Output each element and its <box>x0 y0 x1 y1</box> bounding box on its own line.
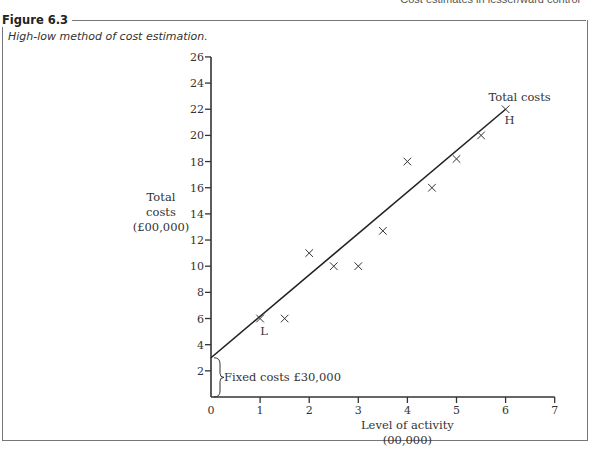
x-tick-label: 3 <box>355 404 362 417</box>
y-axis-label: costs <box>146 205 176 219</box>
y-axis-label: (£00,000) <box>133 220 190 234</box>
x-axis-label: Level of activity <box>361 418 454 432</box>
y-tick-label: 2 <box>197 365 204 378</box>
axes <box>211 57 555 397</box>
y-tick-label: 4 <box>197 339 204 352</box>
x-marker-icon <box>281 315 289 323</box>
x-marker-icon <box>453 155 461 163</box>
y-tick-label: 26 <box>190 51 204 64</box>
x-tick-label: 0 <box>208 404 215 417</box>
x-marker-icon <box>502 105 510 113</box>
ticks: 246810121416182022242601234567 <box>190 51 558 417</box>
x-marker-icon <box>379 227 387 235</box>
x-tick-label: 4 <box>404 404 411 417</box>
high-point-label: H <box>505 113 515 127</box>
x-marker-icon <box>428 184 436 192</box>
y-tick-label: 6 <box>197 313 204 326</box>
y-axis-label: Total <box>147 190 176 204</box>
y-tick-label: 18 <box>190 156 204 169</box>
y-tick-label: 12 <box>190 234 204 247</box>
x-marker-icon <box>477 132 485 140</box>
x-axis-label: (00,000) <box>383 433 432 447</box>
x-tick-label: 6 <box>502 404 509 417</box>
x-marker-icon <box>305 249 313 257</box>
x-tick-label: 1 <box>257 404 264 417</box>
y-tick-label: 8 <box>197 286 204 299</box>
regression-line <box>211 109 506 358</box>
x-tick-label: 2 <box>306 404 313 417</box>
total-costs-line <box>211 109 506 358</box>
scatter-chart: 246810121416182022242601234567 Total cos… <box>0 0 592 463</box>
x-tick-label: 7 <box>551 404 558 417</box>
x-marker-icon <box>355 262 363 270</box>
x-tick-label: 5 <box>453 404 460 417</box>
y-tick-label: 16 <box>190 182 204 195</box>
y-tick-label: 22 <box>190 103 204 116</box>
y-tick-label: 20 <box>190 129 204 142</box>
brace-icon <box>214 358 224 397</box>
y-tick-label: 14 <box>190 208 204 221</box>
x-marker-icon <box>404 158 412 166</box>
x-marker-icon <box>330 262 338 270</box>
y-tick-label: 24 <box>190 77 204 90</box>
total-costs-label: Total costs <box>488 90 550 104</box>
low-point-label: L <box>260 324 268 338</box>
y-tick-label: 10 <box>190 260 204 273</box>
fixed-costs-label: Fixed costs £30,000 <box>224 370 341 384</box>
